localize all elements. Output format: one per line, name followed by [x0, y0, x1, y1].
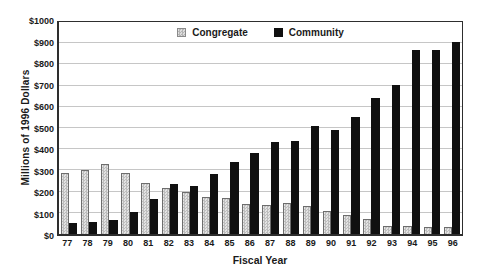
x-tick-label-87: 87 [260, 239, 280, 248]
bar-community-83 [190, 186, 198, 234]
year-group-81 [140, 22, 160, 234]
x-tick-label-94: 94 [402, 239, 422, 248]
year-group-84 [200, 22, 220, 234]
x-tick-label-92: 92 [361, 239, 381, 248]
x-tick-label-84: 84 [199, 239, 219, 248]
x-tick-label-91: 91 [341, 239, 361, 248]
y-axis-tick-labels: $0$100$200$300$400$500$600$700$800$900$1… [20, 21, 54, 236]
x-tick-label-89: 89 [301, 239, 321, 248]
x-axis-tick-labels: 7778798081828384858687888990919293949596 [57, 239, 463, 248]
bar-congregate-89 [303, 206, 311, 234]
bar-community-96 [452, 42, 460, 234]
x-axis-title: Fiscal Year [57, 254, 463, 266]
bar-community-86 [250, 153, 258, 234]
year-group-79 [99, 22, 119, 234]
y-tick-label: $800 [20, 60, 54, 69]
bar-congregate-95 [424, 227, 432, 234]
year-group-87 [261, 22, 281, 234]
bar-congregate-86 [242, 204, 250, 234]
bar-community-77 [69, 223, 77, 234]
year-group-82 [160, 22, 180, 234]
year-group-83 [180, 22, 200, 234]
bar-congregate-79 [101, 164, 109, 234]
x-tick-label-88: 88 [280, 239, 300, 248]
x-tick-label-78: 78 [77, 239, 97, 248]
bar-congregate-93 [383, 226, 391, 234]
year-group-93 [382, 22, 402, 234]
bar-community-90 [331, 130, 339, 234]
x-tick-label-95: 95 [422, 239, 442, 248]
bar-chart-figure: Millions of 1996 Dollars $0$100$200$300$… [0, 0, 482, 274]
x-tick-label-86: 86 [240, 239, 260, 248]
bar-congregate-78 [81, 170, 89, 234]
year-group-96 [442, 22, 462, 234]
bar-community-93 [392, 85, 400, 234]
x-tick-label-85: 85 [219, 239, 239, 248]
bar-community-85 [230, 162, 238, 234]
year-group-85 [220, 22, 240, 234]
bar-congregate-92 [363, 219, 371, 234]
bar-congregate-87 [262, 205, 270, 234]
x-tick-label-93: 93 [382, 239, 402, 248]
bar-community-87 [271, 142, 279, 234]
year-group-77 [59, 22, 79, 234]
bar-congregate-83 [182, 192, 190, 234]
bar-congregate-77 [61, 173, 69, 234]
bar-community-88 [291, 141, 299, 234]
year-group-89 [301, 22, 321, 234]
bar-congregate-85 [222, 198, 230, 234]
year-group-90 [321, 22, 341, 234]
x-tick-label-96: 96 [443, 239, 463, 248]
year-group-94 [402, 22, 422, 234]
y-tick-label: $300 [20, 167, 54, 176]
year-group-92 [361, 22, 381, 234]
year-group-91 [341, 22, 361, 234]
x-tick-label-81: 81 [138, 239, 158, 248]
y-tick-label: $700 [20, 81, 54, 90]
bar-community-78 [89, 222, 97, 234]
y-tick-label: $100 [20, 210, 54, 219]
bar-congregate-80 [121, 173, 129, 234]
y-tick-label: $1000 [20, 17, 54, 26]
year-group-78 [79, 22, 99, 234]
bar-community-81 [150, 199, 158, 234]
bar-community-84 [210, 174, 218, 234]
bar-community-92 [371, 98, 379, 234]
bar-community-82 [170, 184, 178, 234]
x-tick-label-80: 80 [118, 239, 138, 248]
y-tick-label: $900 [20, 38, 54, 47]
bar-community-94 [412, 50, 420, 234]
bar-congregate-96 [444, 227, 452, 234]
y-tick-label: $200 [20, 189, 54, 198]
x-tick-label-83: 83 [179, 239, 199, 248]
x-tick-label-77: 77 [57, 239, 77, 248]
y-tick-label: $600 [20, 103, 54, 112]
bar-congregate-91 [343, 215, 351, 234]
y-tick-label: $500 [20, 124, 54, 133]
bar-community-89 [311, 126, 319, 234]
bar-congregate-94 [403, 226, 411, 234]
x-tick-label-79: 79 [98, 239, 118, 248]
bar-congregate-82 [162, 188, 170, 234]
x-tick-label-82: 82 [158, 239, 178, 248]
bar-congregate-88 [283, 203, 291, 234]
year-group-88 [281, 22, 301, 234]
bar-community-79 [109, 220, 117, 234]
bar-congregate-84 [202, 197, 210, 234]
bar-community-80 [130, 212, 138, 234]
year-group-86 [240, 22, 260, 234]
year-group-95 [422, 22, 442, 234]
y-tick-label: $0 [20, 232, 54, 241]
bar-congregate-90 [323, 211, 331, 234]
x-tick-label-90: 90 [321, 239, 341, 248]
bar-community-91 [351, 117, 359, 234]
bars-layer [59, 22, 462, 234]
y-tick-label: $400 [20, 146, 54, 155]
plot-area: Congregate Community [57, 21, 463, 236]
bar-congregate-81 [141, 183, 149, 234]
bar-community-95 [432, 50, 440, 234]
year-group-80 [119, 22, 139, 234]
